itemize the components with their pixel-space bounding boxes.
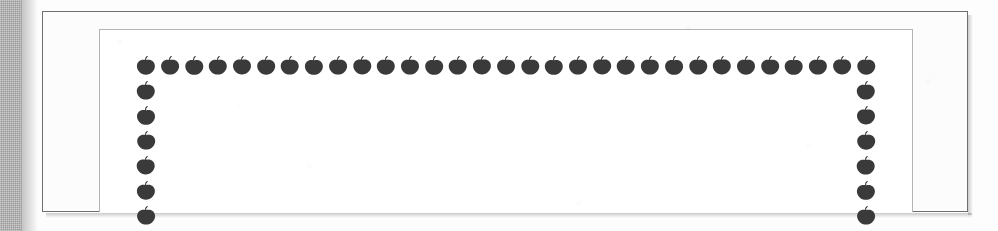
apple-blob-icon-top-12 bbox=[423, 56, 445, 76]
apple-blob-icon-top-6 bbox=[279, 56, 301, 76]
apple-blob-icon-right-6 bbox=[855, 206, 877, 226]
apple-blob-icon-top-11 bbox=[399, 56, 421, 76]
apple-blob-icon-top-0 bbox=[135, 56, 157, 76]
apple-blob-icon-right-5 bbox=[855, 181, 877, 201]
apple-blob-icon-left-5 bbox=[135, 181, 157, 201]
apple-blob-icon-right-3 bbox=[855, 131, 877, 151]
apple-blob-icon-top-29 bbox=[831, 56, 853, 76]
apple-blob-icon-left-4 bbox=[135, 156, 157, 176]
apple-blob-icon-left-2 bbox=[135, 106, 157, 126]
apple-blob-icon-top-28 bbox=[807, 56, 829, 76]
apple-blob-icon-top-16 bbox=[519, 56, 541, 76]
apple-blob-icon-top-27 bbox=[783, 56, 805, 76]
apple-blob-icon-top-26 bbox=[759, 56, 781, 76]
apple-blob-icon-top-4 bbox=[231, 56, 253, 76]
apple-blob-icon-right-2 bbox=[855, 106, 877, 126]
apple-blob-icon-top-23 bbox=[687, 56, 709, 76]
apple-blob-icon-top-3 bbox=[207, 56, 229, 76]
apple-blob-icon-top-20 bbox=[615, 56, 637, 76]
apple-blob-icon-top-10 bbox=[375, 56, 397, 76]
apple-blob-icon-top-25 bbox=[735, 56, 757, 76]
apple-blob-icon-top-21 bbox=[639, 56, 661, 76]
apple-blob-icon-top-2 bbox=[183, 56, 205, 76]
scanned-page-capture bbox=[0, 0, 998, 231]
apple-blob-icon-left-6 bbox=[135, 206, 157, 226]
apple-blob-icon-top-18 bbox=[567, 56, 589, 76]
apple-blob-icon-top-7 bbox=[303, 56, 325, 76]
apple-blob-icon-top-19 bbox=[591, 56, 613, 76]
apple-blob-icon-top-15 bbox=[495, 56, 517, 76]
apple-blob-icon-top-8 bbox=[327, 56, 349, 76]
ornament-clip bbox=[0, 0, 998, 231]
apple-blob-icon-left-1 bbox=[135, 81, 157, 101]
apple-blob-icon-left-3 bbox=[135, 131, 157, 151]
apple-blob-icon-top-22 bbox=[663, 56, 685, 76]
apple-blob-icon-top-30 bbox=[855, 56, 877, 76]
apple-blob-icon-top-1 bbox=[159, 56, 181, 76]
apple-blob-icon-top-5 bbox=[255, 56, 277, 76]
apple-blob-icon-top-17 bbox=[543, 56, 565, 76]
apple-blob-icon-right-1 bbox=[855, 81, 877, 101]
apple-blob-icon-top-9 bbox=[351, 56, 373, 76]
apple-blob-icon-top-13 bbox=[447, 56, 469, 76]
apple-blob-icon-top-14 bbox=[471, 56, 493, 76]
apple-blob-icon-top-24 bbox=[711, 56, 733, 76]
apple-blob-icon-right-4 bbox=[855, 156, 877, 176]
apple-blob-border bbox=[0, 0, 998, 231]
